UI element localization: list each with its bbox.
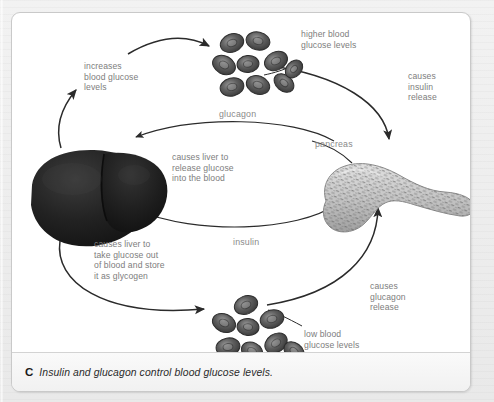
arrow-liver-to-high-glucose xyxy=(128,38,209,54)
arrow-glucagon-pancreas-to-liver xyxy=(136,122,334,141)
pancreas-organ-icon xyxy=(317,153,471,245)
label-increases-blood-glucose: increases blood glucose levels xyxy=(84,61,138,93)
caption-letter: C xyxy=(25,366,33,378)
figure-panel: higher blood glucose levels increases bl… xyxy=(11,12,471,392)
label-pancreas: pancreas xyxy=(315,139,353,149)
diagram-canvas: higher blood glucose levels increases bl… xyxy=(12,13,470,353)
label-insulin: insulin xyxy=(233,237,259,247)
label-glucagon: glucagon xyxy=(219,109,256,119)
label-low-blood-glucose: low blood glucose levels xyxy=(304,329,359,350)
caption-text: Insulin and glucagon control blood gluco… xyxy=(39,367,273,378)
label-causes-liver-take-up: causes liver to take glucose out of bloo… xyxy=(94,239,165,281)
label-causes-glucagon-release: causes glucagon release xyxy=(370,281,406,313)
label-causes-liver-release: causes liver to release glucose into the… xyxy=(172,152,234,184)
arrow-increases-blood-glucose xyxy=(59,90,76,148)
label-causes-insulin-release: causes insulin release xyxy=(408,71,437,103)
label-higher-blood-glucose: higher blood glucose levels xyxy=(301,29,356,50)
figure-caption-bar: C Insulin and glucagon control blood glu… xyxy=(12,352,470,391)
red-blood-cells-icon-high xyxy=(210,31,314,107)
